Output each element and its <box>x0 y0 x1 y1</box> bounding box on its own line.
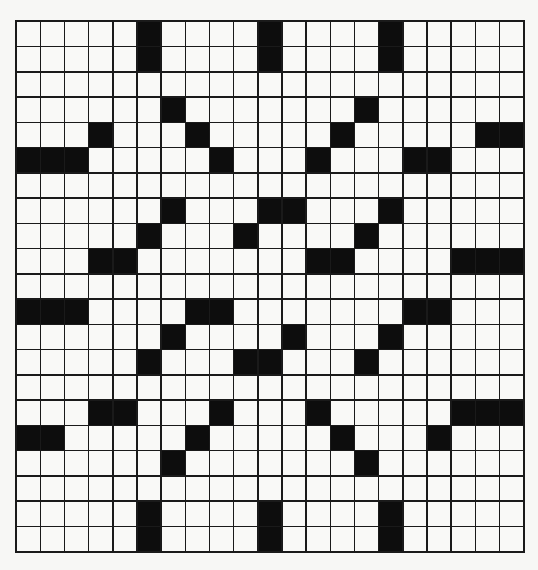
white-square[interactable] <box>138 401 161 425</box>
white-square[interactable] <box>331 98 354 122</box>
white-square[interactable] <box>65 275 88 299</box>
white-square[interactable] <box>259 224 282 248</box>
white-square[interactable] <box>162 73 185 97</box>
white-square[interactable] <box>162 174 185 198</box>
white-square[interactable] <box>404 502 427 526</box>
white-square[interactable] <box>138 174 161 198</box>
white-square[interactable] <box>138 376 161 400</box>
white-square[interactable] <box>283 123 306 147</box>
white-square[interactable] <box>41 174 64 198</box>
white-square[interactable] <box>65 451 88 475</box>
white-square[interactable] <box>379 249 402 273</box>
white-square[interactable] <box>234 98 257 122</box>
white-square[interactable] <box>404 73 427 97</box>
white-square[interactable] <box>331 174 354 198</box>
white-square[interactable] <box>452 350 475 374</box>
white-square[interactable] <box>379 148 402 172</box>
white-square[interactable] <box>114 350 137 374</box>
white-square[interactable] <box>331 275 354 299</box>
white-square[interactable] <box>162 123 185 147</box>
white-square[interactable] <box>428 174 451 198</box>
white-square[interactable] <box>404 47 427 71</box>
white-square[interactable] <box>500 224 523 248</box>
white-square[interactable] <box>17 502 40 526</box>
white-square[interactable] <box>283 47 306 71</box>
white-square[interactable] <box>89 275 112 299</box>
white-square[interactable] <box>331 376 354 400</box>
white-square[interactable] <box>355 300 378 324</box>
white-square[interactable] <box>283 477 306 501</box>
white-square[interactable] <box>452 174 475 198</box>
white-square[interactable] <box>138 275 161 299</box>
white-square[interactable] <box>476 350 499 374</box>
white-square[interactable] <box>404 401 427 425</box>
white-square[interactable] <box>355 47 378 71</box>
white-square[interactable] <box>355 502 378 526</box>
white-square[interactable] <box>89 502 112 526</box>
white-square[interactable] <box>476 376 499 400</box>
white-square[interactable] <box>234 376 257 400</box>
white-square[interactable] <box>210 224 233 248</box>
white-square[interactable] <box>428 249 451 273</box>
white-square[interactable] <box>452 300 475 324</box>
white-square[interactable] <box>355 527 378 551</box>
white-square[interactable] <box>283 275 306 299</box>
white-square[interactable] <box>355 73 378 97</box>
white-square[interactable] <box>500 502 523 526</box>
white-square[interactable] <box>65 174 88 198</box>
white-square[interactable] <box>17 249 40 273</box>
white-square[interactable] <box>452 73 475 97</box>
white-square[interactable] <box>186 174 209 198</box>
white-square[interactable] <box>476 47 499 71</box>
white-square[interactable] <box>162 300 185 324</box>
white-square[interactable] <box>65 325 88 349</box>
white-square[interactable] <box>428 98 451 122</box>
white-square[interactable] <box>404 249 427 273</box>
white-square[interactable] <box>65 98 88 122</box>
white-square[interactable] <box>404 527 427 551</box>
white-square[interactable] <box>259 123 282 147</box>
white-square[interactable] <box>379 224 402 248</box>
white-square[interactable] <box>283 426 306 450</box>
white-square[interactable] <box>114 148 137 172</box>
white-square[interactable] <box>114 502 137 526</box>
white-square[interactable] <box>476 502 499 526</box>
white-square[interactable] <box>234 477 257 501</box>
white-square[interactable] <box>210 451 233 475</box>
white-square[interactable] <box>234 148 257 172</box>
white-square[interactable] <box>476 199 499 223</box>
white-square[interactable] <box>283 401 306 425</box>
white-square[interactable] <box>114 376 137 400</box>
white-square[interactable] <box>404 376 427 400</box>
white-square[interactable] <box>162 527 185 551</box>
white-square[interactable] <box>41 527 64 551</box>
white-square[interactable] <box>307 98 330 122</box>
white-square[interactable] <box>452 47 475 71</box>
white-square[interactable] <box>89 451 112 475</box>
white-square[interactable] <box>89 477 112 501</box>
white-square[interactable] <box>404 325 427 349</box>
white-square[interactable] <box>379 401 402 425</box>
white-square[interactable] <box>234 325 257 349</box>
white-square[interactable] <box>307 477 330 501</box>
white-square[interactable] <box>331 477 354 501</box>
white-square[interactable] <box>41 350 64 374</box>
white-square[interactable] <box>210 73 233 97</box>
white-square[interactable] <box>234 401 257 425</box>
white-square[interactable] <box>162 224 185 248</box>
white-square[interactable] <box>41 123 64 147</box>
white-square[interactable] <box>41 502 64 526</box>
white-square[interactable] <box>452 527 475 551</box>
white-square[interactable] <box>89 22 112 46</box>
white-square[interactable] <box>283 174 306 198</box>
white-square[interactable] <box>234 426 257 450</box>
white-square[interactable] <box>307 174 330 198</box>
white-square[interactable] <box>428 224 451 248</box>
white-square[interactable] <box>259 249 282 273</box>
white-square[interactable] <box>17 527 40 551</box>
white-square[interactable] <box>452 275 475 299</box>
white-square[interactable] <box>17 275 40 299</box>
white-square[interactable] <box>114 527 137 551</box>
white-square[interactable] <box>307 123 330 147</box>
white-square[interactable] <box>428 527 451 551</box>
